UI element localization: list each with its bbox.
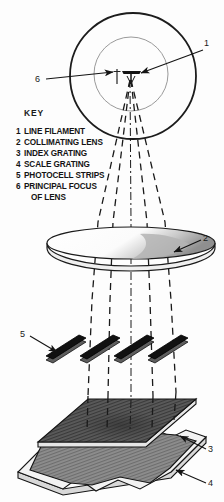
key-item-number: 5 [16,171,21,180]
key-item-label: LINE FILAMENT [24,127,85,136]
key-item: 3 INDEX GRATING [16,149,87,158]
key-item-number: 2 [16,138,21,147]
callout-6-label: 6 [35,74,40,84]
key-item-label: OF LENS [31,193,66,202]
key-item-number: 4 [16,160,21,169]
key-item: 2 COLLIMATING LENS [16,138,103,147]
key-item-label: INDEX GRATING [24,149,87,158]
moire-fringe [78,411,166,439]
diagram-canvas: 1 6 2 5 3 4 KEY 1 LINE FILAMENT 2 COL [0,0,224,502]
key-item-number: 6 [16,182,21,191]
key-item-number: 3 [16,149,21,158]
key-item: 4 SCALE GRATING [16,160,90,169]
key-item-continuation: OF LENS [31,193,66,202]
callout-1-label: 1 [204,38,209,48]
key-item-number: 1 [16,127,21,136]
callout-5-label: 5 [20,329,25,339]
key-item: 5 PHOTOCELL STRIPS [16,171,105,180]
callout-4-label: 4 [208,478,213,488]
key-item: 1 LINE FILAMENT [16,127,85,136]
key-item-label: COLLIMATING LENS [24,138,103,147]
lens-top-face [47,227,215,259]
key-item: 6 PRINCIPAL FOCUS [16,182,97,191]
key-item-label: SCALE GRATING [24,160,90,169]
callout-3-label: 3 [208,444,213,454]
key-item-label: PRINCIPAL FOCUS [24,182,97,191]
key-heading: KEY [24,108,44,118]
callout-2-label: 2 [203,233,208,243]
optical-diagram-figure: 1 6 2 5 3 4 KEY 1 LINE FILAMENT 2 COL [0,0,224,502]
key-item-label: PHOTOCELL STRIPS [24,171,105,180]
